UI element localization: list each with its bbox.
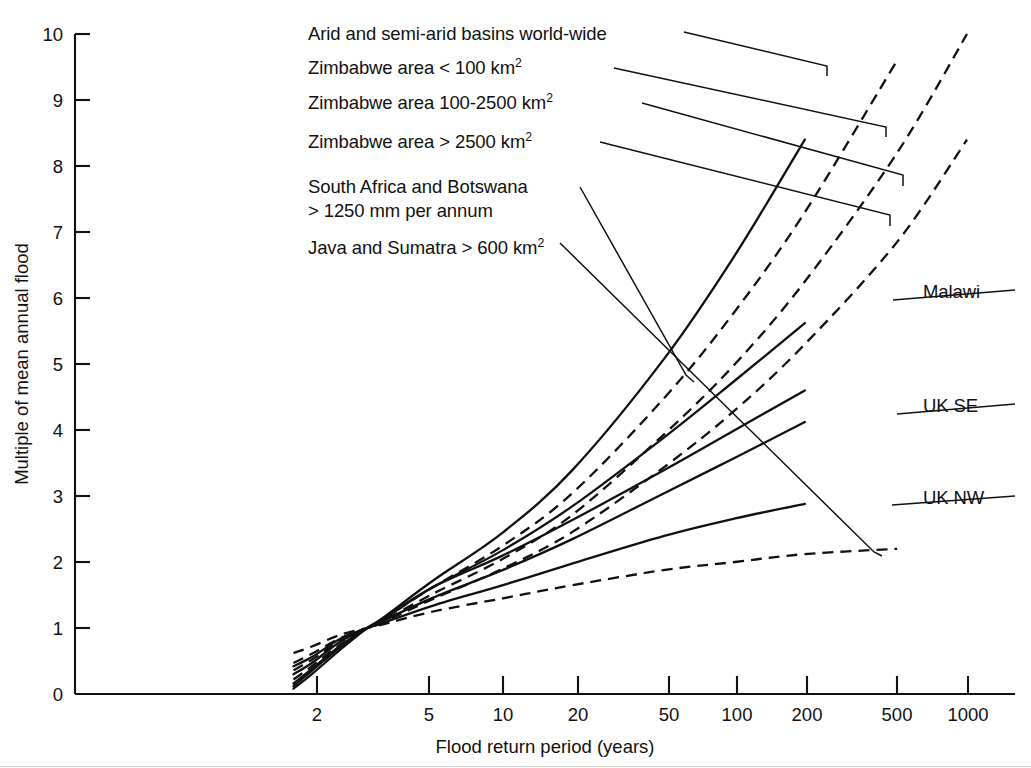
y-tick-label-5: 5 [53,354,63,375]
y-tick-label-9: 9 [53,90,63,111]
annotation-south-africa-line2: > 1250 mm per annum [308,199,528,223]
y-tick-label-2: 2 [53,552,63,573]
annotation-zim-100-2500: Zimbabwe area 100-2500 km2 [308,91,553,115]
leader-zim-gt2500 [600,142,890,226]
axis-lines [75,34,1015,694]
y-tick-label-6: 6 [53,288,63,309]
chart-canvas: 10 9 8 7 6 5 4 3 2 1 0 2 5 10 [0,0,1031,768]
y-axis-ticks [75,34,90,628]
y-tick-label-7: 7 [53,222,63,243]
x-tick-label-50: 50 [659,704,680,725]
x-axis-ticks [317,676,968,694]
series-label-malawi: Malawi [923,280,980,304]
x-tick-label-500: 500 [882,704,913,725]
y-tick-label-10: 10 [42,24,63,45]
leader-arid [684,32,827,76]
x-tick-label-10: 10 [493,704,514,725]
leader-zim-lt100 [614,68,886,137]
y-tick-label-3: 3 [53,486,63,507]
series-label-uk-se: UK SE [923,394,978,418]
x-axis-tick-labels: 2 5 10 20 50 100 200 500 1000 [312,704,989,725]
curve-south-africa-and-botswana-1250-mm-per-annum [293,390,804,688]
x-tick-label-5: 5 [424,704,434,725]
annotation-java-sup: 2 [537,236,544,250]
annotation-zim-gt2500: Zimbabwe area > 2500 km2 [308,130,532,154]
y-tick-label-0: 0 [53,684,63,705]
x-tick-label-2: 2 [312,704,322,725]
series-label-uk-nw: UK NW [923,486,984,510]
annotation-south-africa-line1: South Africa and Botswana [308,175,528,199]
annotation-arid: Arid and semi-arid basins world-wide [308,22,607,46]
annotation-zim-gt2500-sup: 2 [525,130,532,144]
curve-uk-se [293,422,804,674]
annotation-zim-gt2500-text: Zimbabwe area > 2500 km [308,131,525,152]
y-axis-title: Multiple of mean annual flood [11,243,32,485]
annotation-zim-lt100: Zimbabwe area < 100 km2 [308,56,522,80]
curve-java-and-sumatra-600-km2 [293,549,897,653]
x-tick-label-1000: 1000 [947,704,988,725]
annotation-zim-lt100-text: Zimbabwe area < 100 km [308,57,515,78]
curve-malawi [293,323,804,683]
leader-south-africa [580,187,694,382]
annotation-arid-text: Arid and semi-arid basins world-wide [308,23,607,44]
annotation-south-africa: South Africa and Botswana > 1250 mm per … [308,175,528,222]
y-axis-tick-labels: 10 9 8 7 6 5 4 3 2 1 0 [42,24,63,705]
annotation-java-text: Java and Sumatra > 600 km [308,237,537,258]
x-axis-title: Flood return period (years) [435,736,654,757]
annotation-zim-lt100-sup: 2 [515,56,522,70]
x-tick-label-100: 100 [722,704,753,725]
annotation-zim-100-2500-sup: 2 [546,91,553,105]
curve-uk-nw [293,504,804,666]
annotation-java: Java and Sumatra > 600 km2 [308,236,544,260]
x-tick-label-20: 20 [568,704,589,725]
y-tick-label-4: 4 [53,420,63,441]
x-tick-label-200: 200 [792,704,823,725]
y-tick-label-1: 1 [53,618,63,639]
annotation-zim-100-2500-text: Zimbabwe area 100-2500 km [308,92,546,113]
page-separator-rule [0,766,1031,767]
flood-growth-curve-figure: 10 9 8 7 6 5 4 3 2 1 0 2 5 10 [0,0,1031,768]
y-tick-label-8: 8 [53,156,63,177]
